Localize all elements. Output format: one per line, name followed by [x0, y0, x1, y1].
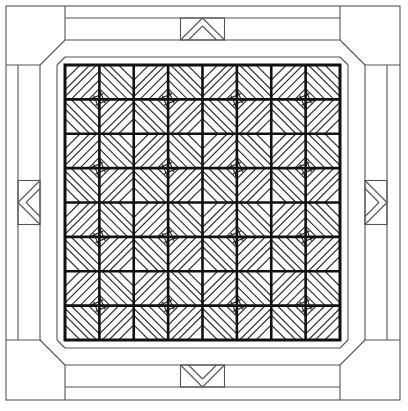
corner-stripe [271, 65, 286, 80]
corner-stripe [271, 271, 286, 286]
corner-stripe [315, 203, 340, 228]
corner-stripe [325, 119, 340, 134]
corner-stripe [178, 178, 203, 203]
corner-stripe [134, 315, 159, 340]
corner-stripe [315, 247, 340, 272]
corner-stripe [65, 109, 90, 134]
corner-stripe [203, 109, 228, 134]
corner-stripe [134, 109, 159, 134]
corner-stripe [134, 271, 159, 296]
corner-stripe [271, 134, 286, 149]
corner-stripe [271, 109, 296, 134]
chevron-down-stroke [203, 365, 217, 379]
corner-stripe [65, 256, 80, 271]
corner-stripe [256, 119, 271, 134]
corner-stripe [109, 65, 134, 90]
corner-stripe [203, 271, 218, 286]
corner-stripe [119, 325, 134, 340]
chevron-right-stroke [365, 203, 379, 217]
corner-stripe [134, 134, 149, 149]
chevron-right-stroke [365, 189, 379, 203]
corner-stripe [256, 203, 271, 218]
corner-stripe [65, 271, 90, 296]
corner-stripe [119, 119, 134, 134]
corner-stripe [65, 119, 80, 134]
corner-stripe [187, 119, 202, 134]
corner-stripe [109, 247, 134, 272]
corner-stripe [203, 203, 228, 228]
corner-stripe [247, 65, 272, 90]
corner-stripe [271, 65, 296, 90]
chevron-down-icon [181, 365, 225, 387]
corner-stripe [134, 247, 159, 272]
corner-stripe [247, 203, 272, 228]
corner-stripe [134, 65, 159, 90]
corner-stripe [325, 65, 340, 80]
corner-stripe [178, 203, 203, 228]
corner-stripe [271, 134, 296, 159]
corner-stripe [65, 134, 90, 159]
corner-stripe [203, 134, 218, 149]
corner-stripe [271, 178, 296, 203]
corner-stripe [271, 203, 296, 228]
corner-stripe [325, 256, 340, 271]
corner-stripe [178, 315, 203, 340]
corner-stripe [247, 178, 272, 203]
corner-stripe [178, 247, 203, 272]
chevron-left-icon [18, 181, 40, 225]
corner-stripe [271, 187, 286, 202]
corner-stripe [256, 187, 271, 202]
corner-stripe [65, 134, 80, 149]
corner-stripe [65, 65, 90, 90]
corner-stripe [203, 271, 228, 296]
corner-stripe [65, 203, 80, 218]
corner-stripe [134, 271, 149, 286]
corner-stripe [65, 247, 90, 272]
corner-stripe [65, 271, 80, 286]
corner-stripe [271, 325, 286, 340]
corner-stripe [315, 109, 340, 134]
corner-stripe [315, 271, 340, 296]
corner-stripe [109, 134, 134, 159]
corner-stripe [65, 315, 90, 340]
chevron-up-stroke [203, 26, 217, 40]
corner-stripe [203, 134, 228, 159]
corner-stripe [134, 203, 149, 218]
corner-stripe [325, 134, 340, 149]
corner-stripe [109, 203, 134, 228]
corner-stripe [187, 256, 202, 271]
corner-stripe [109, 178, 134, 203]
corner-stripe [203, 187, 218, 202]
corner-stripe [178, 134, 203, 159]
corner-stripe [203, 256, 218, 271]
corner-stripe [203, 65, 228, 90]
corner-stripe [109, 109, 134, 134]
corner-stripe [187, 65, 202, 80]
corner-stripe [256, 325, 271, 340]
corner-stripe [134, 187, 149, 202]
corner-stripe [65, 178, 90, 203]
corner-stripe [65, 187, 80, 202]
chevron-down-stroke [189, 365, 203, 379]
corner-stripe [325, 203, 340, 218]
corner-stripe [119, 65, 134, 80]
corner-stripe [247, 134, 272, 159]
corner-stripe [119, 256, 134, 271]
corner-stripe [65, 65, 80, 80]
chevron-right-icon [365, 181, 387, 225]
corner-stripe [315, 134, 340, 159]
corner-stripe [134, 256, 149, 271]
corner-stripe [187, 203, 202, 218]
corner-stripe [203, 65, 218, 80]
corner-stripe [203, 119, 218, 134]
corner-stripe [109, 271, 134, 296]
corner-stripe [134, 178, 159, 203]
corner-stripe [256, 256, 271, 271]
quilt-diagram [0, 0, 408, 411]
corner-stripe [247, 271, 272, 296]
corner-stripe [65, 325, 80, 340]
corner-stripe [134, 203, 159, 228]
corner-stripe [134, 65, 149, 80]
corner-stripe [315, 65, 340, 90]
corner-stripe [187, 325, 202, 340]
